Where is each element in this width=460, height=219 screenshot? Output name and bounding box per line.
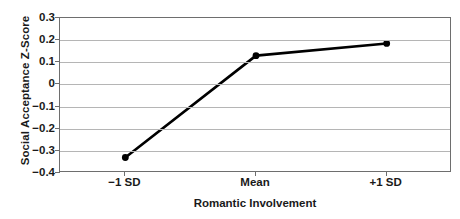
x-tick-mark: [255, 172, 256, 176]
y-tick-label: −0.4: [11, 165, 55, 179]
gridline: [60, 129, 450, 130]
gridline: [60, 40, 450, 41]
chart-figure: Social Acceptance Z-Score 0.30.20.10−0.1…: [0, 0, 460, 219]
x-tick-label: Mean: [210, 176, 300, 188]
y-axis-tick-labels: 0.30.20.10−0.1−0.2−0.3−0.4: [9, 17, 55, 172]
y-tick-label: −0.2: [11, 121, 55, 135]
data-point-marker: [122, 154, 129, 161]
plot-area: [59, 17, 451, 172]
y-tick-label: 0.2: [11, 32, 55, 46]
x-tick-mark: [124, 172, 125, 176]
x-tick-mark: [386, 172, 387, 176]
x-axis-tick-labels: −1 SDMean+1 SD: [59, 176, 451, 192]
x-axis-title: Romantic Involvement: [59, 197, 451, 209]
series-line: [125, 43, 386, 157]
data-point-marker: [253, 52, 260, 59]
line-series: [60, 18, 452, 173]
gridline: [60, 84, 450, 85]
x-tick-label: −1 SD: [79, 176, 169, 188]
gridline: [60, 151, 450, 152]
y-tick-label: 0: [11, 76, 55, 90]
gridline: [60, 107, 450, 108]
x-tick-label: +1 SD: [341, 176, 431, 188]
y-tick-label: 0.1: [11, 54, 55, 68]
y-tick-label: −0.1: [11, 99, 55, 113]
y-tick-label: 0.3: [11, 10, 55, 24]
gridline: [60, 62, 450, 63]
y-tick-label: −0.3: [11, 143, 55, 157]
